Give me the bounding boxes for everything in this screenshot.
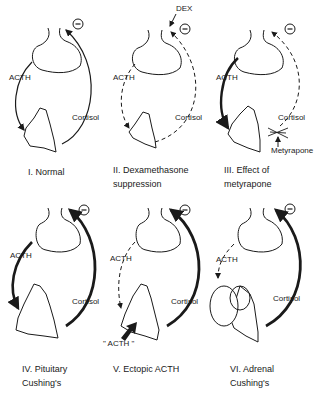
cortisol-label: Cortisol xyxy=(72,297,99,307)
cortisol-arrow xyxy=(62,30,91,144)
ectopic-acth-label: " ACTH " xyxy=(103,339,134,349)
pituitary-shape xyxy=(136,208,180,252)
pituitary-shape xyxy=(32,28,81,73)
pituitary-shape xyxy=(238,208,282,252)
cortisol-arrow xyxy=(167,210,199,326)
cortisol-arrow xyxy=(272,32,299,126)
cortisol-arrow xyxy=(66,210,95,326)
pituitary-shape xyxy=(234,30,283,75)
block-icon xyxy=(268,128,288,138)
cortisol-arrow xyxy=(266,210,300,326)
metyrapone-label: Metyrapone xyxy=(271,146,313,156)
panel-ectopic-acth: ACTH Cortisol " ACTH " V. Ectopic ACTH xyxy=(105,198,211,396)
panel-caption: V. Ectopic ACTH xyxy=(113,362,179,376)
cortisol-label: Cortisol xyxy=(171,297,198,307)
acth-label: ACTH xyxy=(110,254,132,264)
acth-label: ACTH xyxy=(10,251,32,261)
adrenal-shape xyxy=(24,108,56,152)
panel-normal: ACTH Cortisol I. Normal xyxy=(0,0,106,198)
dex-arrow xyxy=(170,14,176,26)
panel-metyrapone: ACTH Cortisol Metyrapone III. Effect of … xyxy=(210,0,316,198)
panel-caption: III. Effect of metyrapone xyxy=(224,163,272,191)
pituitary-shape xyxy=(132,30,181,75)
cortisol-label: Cortisol xyxy=(175,113,202,123)
panel-caption: IV. Pituitary Cushing's xyxy=(22,362,67,390)
cortisol-label: Cortisol xyxy=(72,113,99,123)
panel-caption: II. Dexamethasone suppression xyxy=(113,163,189,191)
dex-label: DEX xyxy=(176,4,192,14)
panel-adrenal-cushings: ACTH Cortisol VI. Adrenal Cushing's xyxy=(210,198,316,396)
cortisol-label: Cortisol xyxy=(278,113,305,123)
acth-label: ACTH xyxy=(113,73,135,83)
acth-label: ACTH xyxy=(216,73,238,83)
adrenal-shape xyxy=(16,284,58,338)
acth-label: ACTH xyxy=(9,73,31,83)
acth-arrow xyxy=(221,58,238,128)
cortisol-label: Cortisol xyxy=(273,294,300,304)
panel-pituitary-cushings: ACTH Cortisol IV. Pituitary Cushing's xyxy=(0,198,106,396)
panel-caption: I. Normal xyxy=(28,165,65,179)
panel-dexamethasone: DEX ACTH Cortisol II. Dexamethasone supp… xyxy=(105,0,211,198)
adrenal-shape xyxy=(228,106,260,152)
acth-label: ACTH xyxy=(216,255,238,265)
panel-caption: VI. Adrenal Cushing's xyxy=(230,362,274,390)
adrenal-shape xyxy=(129,112,156,148)
adrenal-tumor-shape xyxy=(210,286,238,326)
